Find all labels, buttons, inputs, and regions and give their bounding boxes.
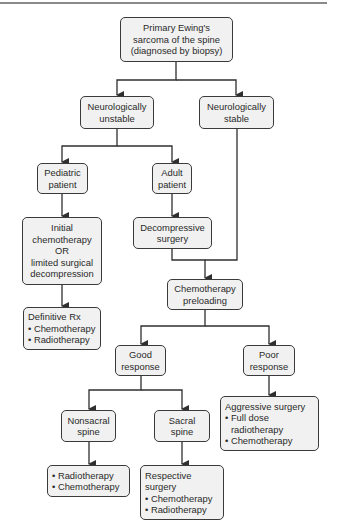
node-text-line: Pediatric bbox=[44, 167, 80, 178]
node-text-line: preloading bbox=[183, 295, 227, 306]
node-text-line: spine bbox=[171, 426, 193, 437]
node-text-line: • Chemotherapy bbox=[145, 493, 212, 504]
connector-neuro-unstable-to-adult bbox=[117, 146, 172, 162]
node-text-line: Aggressive surgery bbox=[225, 401, 305, 412]
node-text-line: • Chemotherapy bbox=[225, 435, 292, 446]
node-nonsacral: Nonsacralspine bbox=[61, 410, 116, 442]
node-neuro-stable: Neurologicallystable bbox=[199, 96, 274, 129]
node-text-line: Sacral bbox=[169, 415, 196, 426]
node-primary: Primary Ewing'ssarcoma of the spine(diag… bbox=[120, 17, 233, 62]
connector-chemo-preloading-to-poor-response bbox=[205, 326, 269, 344]
node-text-line: spine bbox=[77, 426, 99, 437]
node-text-line: radiotherapy bbox=[225, 424, 283, 435]
node-text-line: limited surgical bbox=[31, 257, 93, 268]
node-text-line: (diagnosed by biopsy) bbox=[131, 45, 223, 56]
node-nonsacral-treatment: • Radiotherapy• Chemotherapy bbox=[47, 465, 130, 497]
node-text-line: Neurologically bbox=[207, 101, 266, 112]
node-text-line: surgery bbox=[145, 481, 176, 492]
connector-good-response-to-sacral bbox=[141, 390, 182, 409]
node-text-line: Primary Ewing's bbox=[143, 22, 210, 33]
node-text-line: patient bbox=[158, 179, 186, 190]
node-text-line: decompression bbox=[30, 268, 94, 279]
node-definitive-rx: Definitive Rx• Chemotherapy• Radiotherap… bbox=[23, 307, 101, 350]
node-good-response: Goodresponse bbox=[115, 345, 166, 376]
node-pediatric: Pediatricpatient bbox=[37, 163, 88, 194]
node-aggressive-surgery: Aggressive surgery• Full doseradiotherap… bbox=[220, 396, 319, 451]
node-sacral: Sacralspine bbox=[154, 410, 210, 442]
node-text-line: OR bbox=[55, 245, 69, 256]
node-text-line: surgery bbox=[157, 233, 188, 244]
node-text-line: chemotherapy bbox=[32, 234, 91, 245]
node-text-line: stable bbox=[224, 113, 249, 124]
node-text-line: Neurologically bbox=[88, 101, 147, 112]
node-text-line: Good bbox=[129, 349, 152, 360]
node-text-line: Adult bbox=[161, 167, 182, 178]
node-text-line: Poor bbox=[259, 349, 279, 360]
connector-neuro-unstable-to-pediatric bbox=[62, 129, 117, 162]
node-text-line: Decompressive bbox=[140, 222, 205, 233]
node-sacral-treatment: Respectivesurgery• Chemotherapy• Radioth… bbox=[140, 465, 224, 520]
node-text-line: • Chemotherapy bbox=[28, 323, 95, 334]
node-text-line: Definitive Rx bbox=[28, 311, 81, 322]
node-text-line: patient bbox=[48, 179, 76, 190]
node-text-line: • Chemotherapy bbox=[52, 481, 119, 492]
connector-primary-to-neuro-unstable bbox=[117, 62, 176, 95]
node-initial-chemo: InitialchemotherapyORlimited surgicaldec… bbox=[22, 217, 102, 285]
node-text-line: • Radiotherapy bbox=[145, 504, 207, 515]
node-text-line: unstable bbox=[99, 113, 134, 124]
node-text-line: • Full dose bbox=[225, 412, 269, 423]
node-decompressive: Decompressivesurgery bbox=[133, 217, 212, 249]
connector-good-response-to-nonsacral bbox=[89, 376, 141, 409]
connector-decompressive-to-chemo-preloading bbox=[172, 249, 205, 278]
node-text-line: Respective bbox=[145, 470, 191, 481]
node-text-line: sarcoma of the spine bbox=[133, 34, 220, 45]
node-adult: Adultpatient bbox=[152, 163, 192, 194]
node-text-line: Chemotherapy bbox=[174, 283, 236, 294]
connector-chemo-preloading-to-good-response bbox=[141, 310, 205, 344]
node-text-line: Nonsacral bbox=[67, 415, 109, 426]
connector-primary-to-neuro-stable bbox=[176, 80, 236, 95]
node-chemo-preloading: Chemotherapypreloading bbox=[167, 279, 243, 310]
node-text-line: Initial bbox=[51, 222, 73, 233]
node-text-line: response bbox=[121, 361, 160, 372]
node-text-line: response bbox=[250, 361, 289, 372]
node-poor-response: Poorresponse bbox=[243, 345, 295, 376]
node-text-line: • Radiotherapy bbox=[52, 470, 114, 481]
node-text-line: • Radiotherapy bbox=[28, 334, 90, 345]
node-neuro-unstable: Neurologicallyunstable bbox=[80, 96, 154, 129]
